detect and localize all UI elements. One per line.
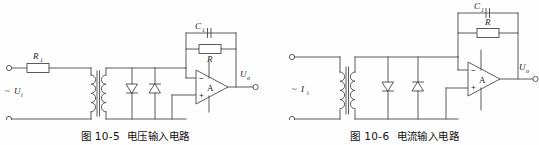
input-terminal-top [6, 65, 11, 70]
figure-caption-voltage: 图 10-5电压输入电路 [0, 128, 270, 143]
figure-caption-number-current: 图 10-6 [350, 130, 390, 142]
figure-caption-text-current: 电流输入电路 [397, 130, 459, 142]
opamp-label: A [479, 75, 486, 85]
output-label-voltage: U [240, 69, 247, 79]
source-prefix-current: ~ [292, 84, 297, 94]
transformer-primary-coil [91, 75, 96, 112]
opamp-noninverting-sign: + [471, 83, 476, 92]
diode-left-triangle [383, 82, 394, 91]
resistor-r1-sublabel: 1 [40, 57, 43, 63]
figure-caption-number-voltage: 图 10-5 [81, 130, 121, 142]
output-label-current: U [519, 62, 526, 72]
figure-current-input: ~ I i [270, 0, 539, 145]
source-prefix-voltage: ~ [5, 86, 10, 96]
transformer-secondary-coil [350, 72, 355, 109]
input-terminal-bottom [289, 116, 294, 120]
capacitor-c1-label: C [474, 1, 481, 11]
figure-caption-current: 图 10-6电流输入电路 [270, 128, 539, 143]
resistor-rf-label: R [484, 17, 491, 27]
source-label-current: I [300, 84, 305, 94]
schematic-current-input: ~ I i [270, 0, 539, 120]
output-terminal [533, 76, 538, 81]
source-label-voltage: U [14, 86, 21, 96]
capacitor-c1-label: C [195, 21, 202, 31]
output-sublabel-voltage: o [247, 75, 250, 81]
diode-left-triangle [127, 84, 138, 93]
transformer-primary-coil [340, 72, 345, 109]
capacitor-c1-sublabel: 1 [202, 27, 205, 33]
resistor-rf-body [477, 29, 499, 38]
source-sublabel-current: i [307, 90, 309, 96]
output-terminal [253, 84, 258, 89]
opamp-inverting-sign: − [199, 74, 204, 83]
opamp-noninverting-sign: + [199, 91, 204, 100]
schematic-voltage-input: R 1 ~ U i [0, 0, 270, 120]
input-terminal-top [289, 54, 294, 59]
figure-voltage-input: R 1 ~ U i [0, 0, 270, 145]
resistor-rf-label: R [206, 54, 213, 64]
resistor-r1-label: R [32, 51, 39, 61]
output-sublabel-current: o [526, 68, 529, 74]
input-terminal-bottom [6, 116, 11, 120]
figure-sheet: R 1 ~ U i [0, 0, 539, 145]
opamp-inverting-sign: − [471, 66, 476, 75]
resistor-rf-body [199, 45, 221, 54]
transformer-secondary-coil [101, 75, 106, 112]
source-sublabel-voltage: i [21, 92, 23, 98]
figure-caption-text-voltage: 电压输入电路 [127, 130, 189, 142]
diode-right-triangle [413, 82, 424, 91]
capacitor-c1-sublabel: 1 [481, 7, 484, 13]
diode-right-triangle [150, 84, 161, 93]
opamp-label: A [207, 83, 214, 93]
resistor-r1-body [27, 64, 49, 73]
